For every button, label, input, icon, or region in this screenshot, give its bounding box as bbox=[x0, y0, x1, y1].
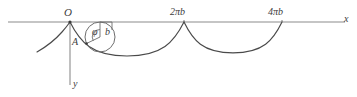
point-A-label: A bbox=[72, 37, 78, 47]
cycloid-figure: O A φ b x y 2πb 4πb bbox=[0, 0, 357, 97]
origin-point-marker bbox=[68, 20, 71, 23]
x-axis-label: x bbox=[344, 14, 348, 24]
y-axis-label: y bbox=[73, 79, 77, 89]
cycloid-arch-partial-left bbox=[37, 22, 70, 52]
phi-angle-label: φ bbox=[92, 27, 98, 37]
radius-b-label: b bbox=[105, 27, 110, 37]
tick-label-2pib: 2πb bbox=[170, 7, 185, 17]
tick-label-4pib: 4πb bbox=[268, 7, 283, 17]
cycloid-arch-first bbox=[70, 22, 184, 56]
point-A-marker bbox=[85, 42, 88, 45]
origin-label: O bbox=[64, 7, 72, 18]
cycloid-arch-second bbox=[184, 22, 282, 53]
